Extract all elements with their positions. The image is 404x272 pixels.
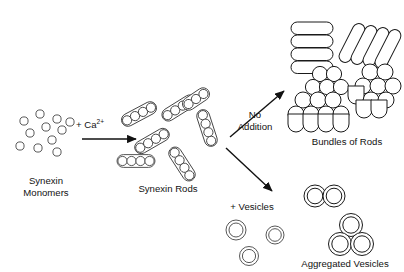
no-addition-label-line1: No (249, 109, 261, 120)
monomer-circle (66, 118, 74, 126)
vesicle-inner-ring (354, 236, 370, 252)
bundle-circle (377, 64, 393, 80)
rod-bead (127, 156, 136, 165)
rod-bead (145, 156, 154, 165)
synexin-rod (180, 85, 212, 112)
vesicle-inner-ring (332, 236, 348, 252)
stage-bundles-of-rods: Bundles of Rods (288, 21, 403, 147)
bundles-label: Bundles of Rods (312, 136, 383, 147)
synexin-rod (132, 126, 171, 156)
monomer-circle (48, 136, 56, 144)
stacked-capsule (291, 22, 333, 35)
stacked-capsule (291, 48, 333, 61)
bundle-tail (288, 114, 304, 132)
aggregated-label: Aggregated Vesicles (301, 258, 389, 269)
rod-bundle-cluster-lower-left (288, 92, 349, 132)
monomer-circle (42, 123, 50, 131)
synexin-pathway-diagram: Synexin Monomers + Ca2+ (0, 0, 404, 272)
plus-vesicles-label: + Vesicles (230, 201, 274, 212)
rod-bead (136, 156, 145, 165)
plus-vesicles-arrow (226, 148, 272, 191)
calcium-label: + Ca2+ (76, 118, 104, 130)
synexin-rod (117, 155, 155, 168)
vesicle-aggregate-pair (304, 185, 345, 207)
monomer-circle (36, 110, 44, 118)
vesicle-inner-ring (343, 217, 359, 233)
stage-free-vesicles (226, 220, 284, 266)
bundle-tail (318, 114, 334, 132)
monomer-circle-group (16, 110, 74, 156)
bundle-tail (303, 114, 319, 132)
bundle-tail (333, 114, 349, 132)
monomer-circle (16, 142, 24, 150)
free-vesicle (240, 247, 259, 266)
bundle-circle (385, 78, 401, 94)
vesicle-inner-ring (307, 188, 323, 204)
monomer-circle (53, 115, 61, 123)
monomer-circle (26, 129, 34, 137)
monomer-circle (34, 144, 42, 152)
rod-stack-diagonal (337, 21, 403, 70)
bundle-tail (371, 100, 387, 118)
bundle-tail (356, 100, 372, 118)
stacked-capsule (291, 35, 333, 48)
bundle-circle (310, 92, 326, 108)
diagram-canvas: Synexin Monomers + Ca2+ (0, 0, 404, 272)
stage-synexin-monomers: Synexin Monomers (16, 110, 74, 198)
monomer-circle (58, 126, 66, 134)
monomers-label-line1: Synexin (29, 175, 63, 186)
vesicle-inner-ring (326, 188, 342, 204)
monomers-label-line2: Monomers (23, 187, 69, 198)
synexin-rod (119, 99, 159, 128)
bundle-circle (370, 78, 386, 94)
calcium-label-text: + Ca (76, 119, 97, 130)
rod-bead (118, 156, 127, 165)
calcium-superscript: 2+ (97, 118, 105, 125)
rod-stack-horizontal (291, 22, 333, 74)
bundle-circle (295, 92, 311, 108)
arrow-plus-vesicles-group: + Vesicles (226, 148, 274, 212)
bundle-circle (362, 64, 378, 80)
synexin-rod (166, 145, 197, 184)
no-addition-label-line2: Addition (238, 121, 273, 132)
vesicle-aggregate-triangle (329, 214, 374, 256)
vesicle-inner-ring (269, 229, 282, 242)
monomer-circle (53, 148, 61, 156)
free-vesicle (266, 226, 284, 244)
stage-aggregated-vesicles: Aggregated Vesicles (301, 185, 389, 269)
free-vesicle (226, 220, 246, 240)
vesicle-inner-ring (242, 249, 255, 262)
synexin-rod (195, 108, 219, 148)
rod-bundle-cluster-right (348, 64, 401, 118)
arrow-no-addition-group: No Addition (230, 91, 284, 137)
bundle-circle (325, 92, 341, 108)
vesicle-inner-ring (229, 223, 243, 237)
rods-label: Synexin Rods (138, 183, 197, 194)
monomer-circle (20, 117, 28, 125)
